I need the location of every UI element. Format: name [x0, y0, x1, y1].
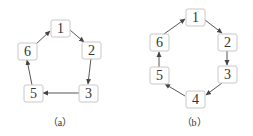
figure-a: 1 2 3 5 6 （a）: [18, 20, 101, 128]
node-b-4: 4: [186, 91, 205, 108]
node-label: 5: [156, 68, 163, 83]
node-b-2: 2: [218, 34, 237, 51]
node-a-1: 1: [51, 20, 70, 37]
edge-b-6-1: [164, 19, 185, 34]
edge-b-3-4: [206, 83, 222, 95]
caption-a: （a）: [48, 117, 72, 128]
caption-b: （b）: [182, 117, 207, 128]
node-label: 6: [24, 44, 31, 59]
edge-a-6-1: [35, 31, 50, 45]
edge-a-1-2: [70, 30, 84, 42]
node-label: 6: [156, 35, 163, 50]
node-label: 2: [224, 35, 231, 50]
node-a-5: 5: [24, 85, 43, 102]
node-label: 1: [57, 21, 64, 36]
node-b-3: 3: [218, 66, 237, 83]
node-b-5: 5: [150, 67, 169, 84]
edge-a-2-3: [88, 58, 91, 84]
node-label: 3: [224, 67, 231, 82]
edge-b-1-2: [205, 20, 222, 33]
node-a-2: 2: [82, 42, 101, 59]
node-label: 3: [85, 86, 92, 101]
node-a-3: 3: [79, 85, 98, 102]
node-b-1: 1: [186, 9, 205, 26]
edge-a-5-6: [27, 60, 32, 85]
edge-b-4-5: [165, 84, 185, 96]
node-label: 1: [192, 10, 199, 25]
figure-b: 1 2 3 4 5 6 （b）: [150, 9, 237, 128]
cycle-diagrams: 1 2 3 5 6 （a） 1: [0, 0, 253, 136]
node-label: 2: [88, 43, 95, 58]
node-label: 5: [30, 86, 37, 101]
node-b-6: 6: [150, 34, 169, 51]
node-label: 4: [192, 92, 199, 107]
node-a-6: 6: [18, 43, 37, 60]
